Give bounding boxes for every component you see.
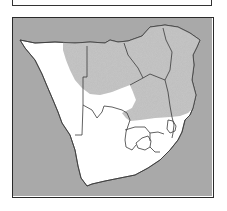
map-frame: [12, 17, 214, 198]
southern-africa-map: [13, 18, 212, 196]
caption-box: [12, 0, 212, 6]
